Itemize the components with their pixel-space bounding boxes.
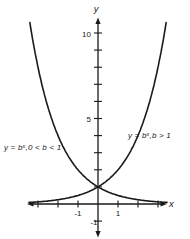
- curve-label-increasing: y = bx,b > 1: [127, 131, 171, 141]
- y-tick-label: -1: [90, 218, 98, 227]
- exponential-functions-figure: y x -11-1510 y = bx,0 < b < 1 y = bx,b >…: [0, 0, 190, 239]
- curve-label-increasing-suffix: ,b > 1: [150, 131, 171, 140]
- curve-label-decreasing-prefix: y = b: [3, 143, 23, 152]
- y-tick-label: 5: [87, 115, 92, 124]
- y-axis-bottom-arrow-icon: [95, 231, 100, 238]
- y-axis-label: y: [93, 3, 100, 14]
- y-axis-top-arrow-icon: [95, 18, 100, 25]
- y-tick-label: 10: [82, 30, 91, 39]
- curve-label-decreasing-suffix: ,0 < b < 1: [26, 143, 62, 152]
- exponential-graph: y x -11-1510 y = bx,0 < b < 1 y = bx,b >…: [0, 0, 190, 239]
- x-tick-label: -1: [74, 209, 82, 218]
- x-tick-label: 1: [116, 209, 121, 218]
- curve-label-increasing-prefix: y = b: [127, 131, 147, 140]
- curve-label-decreasing: y = bx,0 < b < 1: [3, 143, 61, 153]
- x-axis-label: x: [168, 198, 175, 209]
